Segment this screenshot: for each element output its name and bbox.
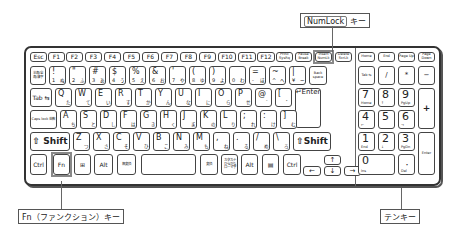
key-n[interactable]: Nみ bbox=[173, 132, 190, 151]
numpad-6-key[interactable]: 6→ bbox=[398, 110, 415, 129]
numpad-asterisk-key[interactable]: * bbox=[398, 66, 415, 85]
key-x[interactable]: Xさ bbox=[93, 132, 110, 151]
key-7[interactable]: '7や bbox=[169, 66, 186, 85]
numpad-decimal-key[interactable]: ・Del bbox=[398, 154, 415, 175]
numpad-9-key[interactable]: 9PgUp bbox=[398, 88, 415, 107]
key-key[interactable]: =-ほ bbox=[249, 66, 266, 85]
key-pause-break[interactable]: Pause Break bbox=[295, 52, 312, 62]
numpad-tab-key[interactable]: Tab ⇆ bbox=[358, 66, 375, 85]
key-f11[interactable]: F11 bbox=[238, 52, 256, 62]
key-f3[interactable]: F3 bbox=[85, 52, 102, 62]
key-5[interactable]: %5え bbox=[129, 66, 146, 85]
key-q[interactable]: Qた bbox=[55, 88, 72, 107]
key-key[interactable]: .る bbox=[233, 132, 250, 151]
key-shift-right[interactable]: ⇧Shift bbox=[293, 132, 331, 151]
key-key[interactable]: ~^へ bbox=[269, 66, 286, 85]
key-key[interactable]: /め bbox=[253, 132, 270, 151]
key-hankaku-zenkaku[interactable]: 半角/全角/漢字 bbox=[30, 66, 46, 85]
key-key[interactable]: ,ね bbox=[213, 132, 230, 151]
numpad-0-key[interactable]: 0Ins bbox=[358, 154, 395, 175]
key-page-up[interactable]: Page Up bbox=[398, 52, 415, 62]
key-key[interactable]: ]む bbox=[280, 110, 297, 129]
key-home[interactable]: Home bbox=[358, 52, 375, 62]
key-alt-left[interactable]: Alt bbox=[94, 154, 113, 175]
key-w[interactable]: Wて bbox=[75, 88, 92, 107]
key-key[interactable]: \ろ bbox=[273, 132, 290, 151]
key-h[interactable]: Hく bbox=[160, 110, 177, 129]
key-p[interactable]: Pせ bbox=[235, 88, 252, 107]
key-s[interactable]: Sと bbox=[80, 110, 97, 129]
key-e[interactable]: Eい bbox=[95, 88, 112, 107]
key-f1[interactable]: F1 bbox=[48, 52, 65, 62]
key-9[interactable]: )9よ bbox=[209, 66, 226, 85]
numpad-2-key[interactable]: 2↓ bbox=[378, 132, 395, 151]
key-ctrl-left[interactable]: Ctrl bbox=[30, 154, 47, 175]
key-a[interactable]: Aち bbox=[60, 110, 77, 129]
key-y[interactable]: Yん bbox=[155, 88, 172, 107]
windows-key[interactable]: ⊞ bbox=[74, 154, 91, 175]
key-f6[interactable]: F6 bbox=[142, 52, 159, 62]
key-f[interactable]: Fは bbox=[120, 110, 137, 129]
key-enter[interactable]: ↵Enter bbox=[295, 88, 321, 128]
key-2[interactable]: "2ふ bbox=[69, 66, 86, 85]
numpad-3-key[interactable]: 3PgDn bbox=[398, 132, 415, 151]
key-key[interactable]: |¥ー bbox=[289, 66, 306, 85]
key-delete-scrlk[interactable]: Delete ScrLk bbox=[335, 52, 352, 62]
menu-key[interactable]: ▤ bbox=[262, 154, 279, 175]
key-alt-right[interactable]: Alt bbox=[241, 154, 258, 175]
key-prtsc-sysrq[interactable]: PrtSc SysRq bbox=[276, 52, 293, 62]
numpad-5-key[interactable]: 5 bbox=[378, 110, 395, 129]
key-key[interactable]: [゜ bbox=[275, 88, 292, 107]
key-t[interactable]: Tか bbox=[135, 88, 152, 107]
key-kana[interactable]: カタカナ ひらがな ローマ字 bbox=[221, 154, 238, 175]
numpad-8-key[interactable]: 8↑ bbox=[378, 88, 395, 107]
key-o[interactable]: Oら bbox=[215, 88, 232, 107]
key-backspace[interactable]: Back space bbox=[309, 66, 327, 85]
key-z[interactable]: Zつ bbox=[73, 132, 90, 151]
key-j[interactable]: Jま bbox=[180, 110, 197, 129]
key-d[interactable]: Dし bbox=[100, 110, 117, 129]
key-k[interactable]: Kの bbox=[200, 110, 217, 129]
key-f10[interactable]: F10 bbox=[218, 52, 236, 62]
key-3[interactable]: #3あ bbox=[89, 66, 106, 85]
key-b[interactable]: Bこ bbox=[153, 132, 170, 151]
key-m[interactable]: Mも bbox=[193, 132, 210, 151]
key-u[interactable]: Uな bbox=[175, 88, 192, 107]
key-f4[interactable]: F4 bbox=[104, 52, 121, 62]
key-r[interactable]: Rす bbox=[115, 88, 132, 107]
key-1[interactable]: !1ぬ bbox=[49, 66, 66, 85]
key-ctrl-right[interactable]: Ctrl bbox=[283, 154, 301, 175]
key-f9[interactable]: F9 bbox=[199, 52, 216, 62]
key-f12[interactable]: F12 bbox=[257, 52, 275, 62]
numpad-enter-key[interactable]: Enter bbox=[418, 132, 435, 175]
arrow-up-key[interactable]: ↑ bbox=[324, 155, 341, 165]
key-page-down[interactable]: Page Down bbox=[418, 52, 435, 62]
key-4[interactable]: $4う bbox=[109, 66, 126, 85]
key-f8[interactable]: F8 bbox=[180, 52, 197, 62]
key-key[interactable]: ;れ bbox=[240, 110, 257, 129]
key-f7[interactable]: F7 bbox=[161, 52, 178, 62]
key-i[interactable]: Iに bbox=[195, 88, 212, 107]
numpad-1-key[interactable]: 1End bbox=[358, 132, 375, 151]
numpad-minus-key[interactable]: − bbox=[418, 66, 435, 85]
key-henkan[interactable]: 変換 bbox=[200, 154, 218, 175]
key-muhenkan[interactable]: 無変換 bbox=[117, 154, 136, 175]
arrow-down-key[interactable]: ↓ bbox=[324, 166, 341, 176]
numpad-slash-key[interactable]: / bbox=[378, 66, 395, 85]
key-6[interactable]: &6お bbox=[149, 66, 166, 85]
key-8[interactable]: (8ゆ bbox=[189, 66, 206, 85]
numpad-4-key[interactable]: 4← bbox=[358, 110, 375, 129]
key-g[interactable]: Gき bbox=[140, 110, 157, 129]
key-f5[interactable]: F5 bbox=[123, 52, 140, 62]
key-0[interactable]: 0わ bbox=[229, 66, 246, 85]
key-end[interactable]: End bbox=[378, 52, 395, 62]
key-shift-left[interactable]: ⇧ Shift bbox=[30, 132, 70, 151]
arrow-left-key[interactable]: ← bbox=[303, 166, 321, 176]
key-l[interactable]: Lり bbox=[220, 110, 237, 129]
key-key[interactable]: @゛ bbox=[255, 88, 272, 107]
key-capslock[interactable]: Caps lock 英数 bbox=[30, 110, 57, 129]
key-c[interactable]: Cそ bbox=[113, 132, 130, 151]
numpad-plus-key[interactable]: + bbox=[418, 88, 435, 129]
numpad-7-key[interactable]: 7Home bbox=[358, 88, 375, 107]
space-bar[interactable] bbox=[141, 154, 196, 175]
